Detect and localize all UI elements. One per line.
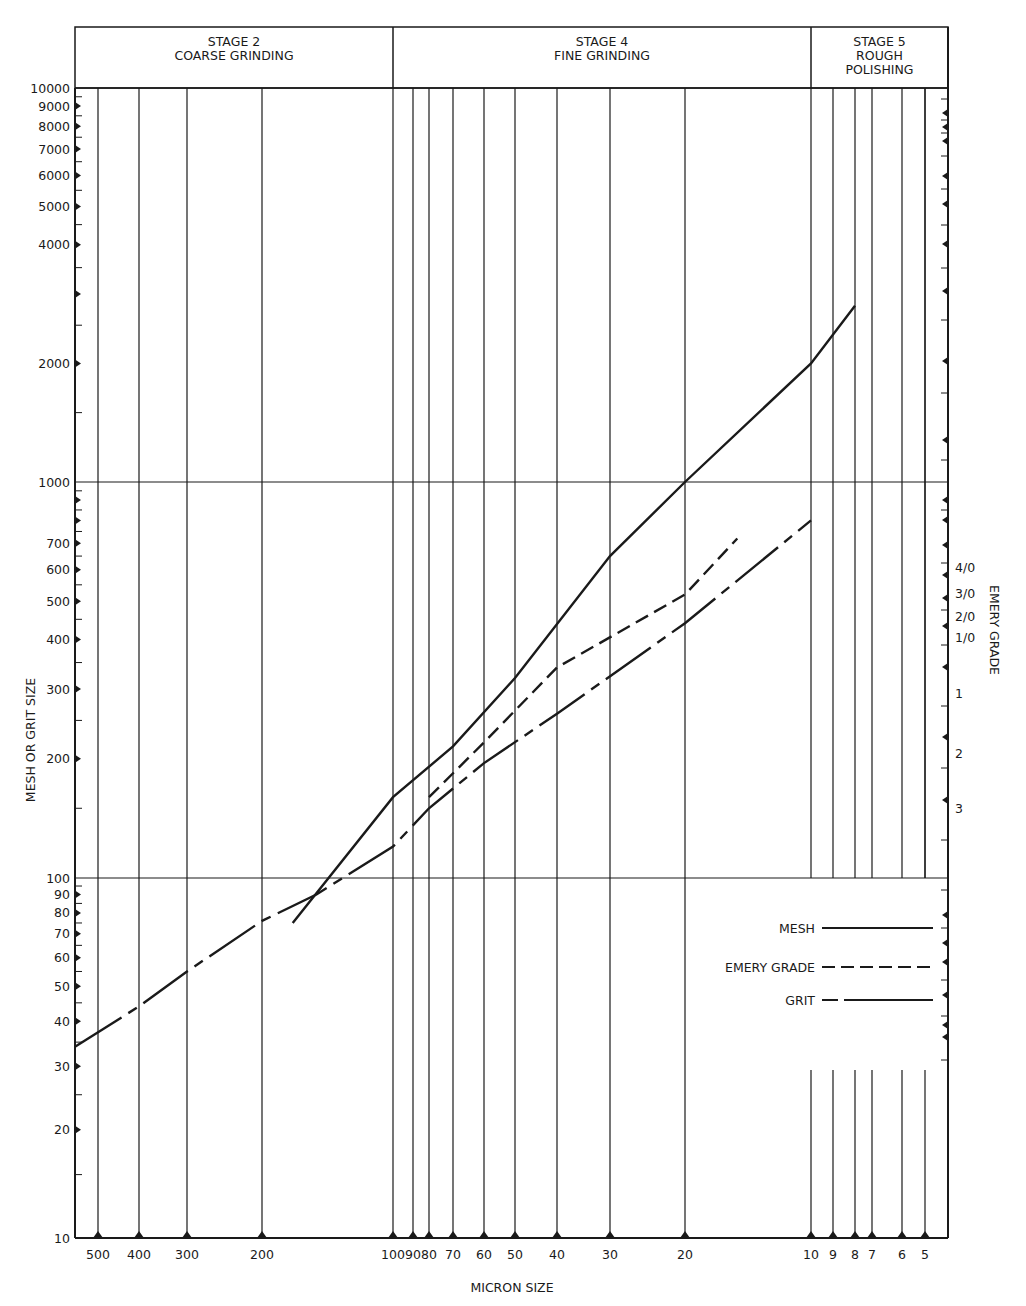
x-tick-marker: [134, 1231, 144, 1238]
y-tick-marker: [75, 516, 81, 524]
y-tick-label: 20: [54, 1122, 70, 1137]
right-tick-marker: [942, 516, 948, 524]
y-tick-marker: [75, 755, 81, 763]
emery-grade-label: 2/0: [955, 609, 975, 624]
x-tick-label: 10: [803, 1247, 819, 1262]
right-tick-marker: [942, 1021, 948, 1029]
x-tick-label: 50: [507, 1247, 523, 1262]
stage-label: STAGE 5: [853, 34, 905, 49]
emery-grade-label: 1/0: [955, 630, 975, 645]
x-tick-label: 8: [851, 1247, 859, 1262]
right-tick-marker: [942, 496, 948, 504]
x-tick-marker: [920, 1231, 930, 1238]
right-tick-marker: [942, 939, 948, 947]
right-tick-marker: [942, 796, 948, 804]
x-tick-marker: [897, 1231, 907, 1238]
y-tick-marker: [75, 566, 81, 574]
y-tick-label: 400: [46, 632, 70, 647]
emery-grade-label: 2: [955, 746, 963, 761]
y-tick-marker: [75, 636, 81, 644]
x-tick-marker: [257, 1231, 267, 1238]
x-tick-marker: [680, 1231, 690, 1238]
series-grit: [75, 520, 811, 1046]
y-tick-marker: [75, 909, 81, 917]
right-tick-marker: [942, 1033, 948, 1041]
chart-canvas: STAGE 2COARSE GRINDINGSTAGE 4FINE GRINDI…: [0, 0, 1026, 1306]
right-axis-markers: 4/03/02/01/0123EMERY GRADE: [941, 99, 1002, 1060]
legend: MESHEMERY GRADEGRIT: [725, 921, 933, 1008]
y-tick-label: 90: [54, 887, 70, 902]
y-axis-title: MESH OR GRIT SIZE: [23, 678, 38, 802]
x-tick-label: 500: [86, 1247, 110, 1262]
right-tick-marker: [942, 123, 948, 131]
x-tick-marker: [408, 1231, 418, 1238]
y-tick-marker: [75, 496, 81, 504]
y-tick-marker: [75, 122, 81, 130]
y-tick-marker: [75, 930, 81, 938]
y-tick-marker: [75, 203, 81, 211]
y-tick-label: 2000: [38, 356, 70, 371]
y-tick-marker: [75, 1062, 81, 1070]
y-axis-labels: 1000090008000700060005000400020001000700…: [23, 81, 82, 1246]
x-tick-label: 200: [250, 1247, 274, 1262]
x-tick-label: 30: [602, 1247, 618, 1262]
x-tick-marker: [552, 1231, 562, 1238]
y-tick-marker: [75, 359, 81, 367]
y-tick-marker: [75, 171, 81, 179]
right-tick-marker: [942, 172, 948, 180]
x-tick-label: 20: [677, 1247, 693, 1262]
x-tick-label: 90: [405, 1247, 421, 1262]
y-tick-label: 10: [54, 1231, 70, 1246]
y-tick-label: 100: [46, 871, 70, 886]
y-tick-label: 60: [54, 950, 70, 965]
x-tick-label: 40: [549, 1247, 565, 1262]
stage-label: STAGE 4: [576, 34, 628, 49]
x-tick-marker: [448, 1231, 458, 1238]
y-tick-marker: [75, 539, 81, 547]
stage-label: STAGE 2: [208, 34, 260, 49]
stage-label: COARSE GRINDING: [174, 48, 293, 63]
y-tick-label: 9000: [38, 99, 70, 114]
right-tick-marker: [942, 541, 948, 549]
legend-label: GRIT: [785, 993, 815, 1008]
right-tick-marker: [942, 733, 948, 741]
x-tick-marker: [867, 1231, 877, 1238]
emery-grade-label: 3/0: [955, 586, 975, 601]
data-series: [75, 306, 855, 1047]
right-tick-marker: [942, 622, 948, 630]
series-emery-grade: [429, 539, 737, 798]
y-tick-marker: [75, 954, 81, 962]
right-tick-marker: [942, 137, 948, 145]
x-tick-marker: [93, 1231, 103, 1238]
x-tick-marker: [479, 1231, 489, 1238]
right-tick-marker: [942, 663, 948, 671]
y-tick-label: 300: [46, 682, 70, 697]
stage-label: ROUGH: [856, 48, 903, 63]
y-tick-label: 5000: [38, 199, 70, 214]
y-tick-label: 40: [54, 1014, 70, 1029]
legend-label: MESH: [779, 921, 815, 936]
right-tick-marker: [942, 958, 948, 966]
right-tick-marker: [942, 287, 948, 295]
y-tick-label: 10000: [30, 81, 70, 96]
right-tick-marker: [942, 357, 948, 365]
right-tick-marker: [942, 436, 948, 444]
y-tick-label: 600: [46, 562, 70, 577]
right-tick-marker: [942, 594, 948, 602]
y-tick-marker: [75, 890, 81, 898]
y-tick-marker: [75, 982, 81, 990]
x-tick-marker: [388, 1231, 398, 1238]
stage-label: FINE GRINDING: [554, 48, 650, 63]
x-tick-label: 80: [421, 1247, 437, 1262]
right-tick-marker: [942, 991, 948, 999]
right-tick-marker: [942, 109, 948, 117]
x-axis-labels: 50040030020010090807060504030201098765MI…: [86, 1247, 929, 1295]
stage-label: POLISHING: [845, 62, 913, 77]
x-tick-label: 7: [868, 1247, 876, 1262]
y-tick-label: 30: [54, 1059, 70, 1074]
x-tick-marker: [828, 1231, 838, 1238]
x-tick-marker: [850, 1231, 860, 1238]
right-tick-marker: [942, 571, 948, 579]
y-tick-label: 50: [54, 979, 70, 994]
x-tick-marker: [182, 1231, 192, 1238]
